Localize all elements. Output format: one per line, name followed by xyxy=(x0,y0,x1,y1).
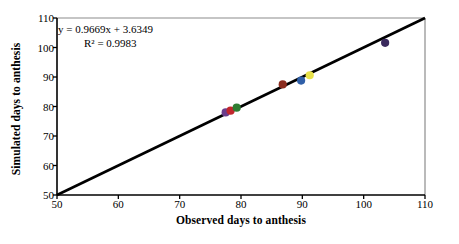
scatter-chart-figure: y = 0.9669x + 3.6349 R² = 0.9983 5060708… xyxy=(0,0,459,244)
r-squared-value: R² = 0.9983 xyxy=(58,36,153,50)
y-tick-label: 60 xyxy=(20,160,54,171)
x-tick-label: 70 xyxy=(160,199,200,210)
y-tick-label: 70 xyxy=(20,131,54,142)
data-point xyxy=(297,76,305,84)
x-axis-tick-labels: 5060708090100110 xyxy=(0,199,459,215)
data-point xyxy=(381,39,389,47)
data-point xyxy=(279,80,287,88)
y-tick-label: 110 xyxy=(20,13,54,24)
x-tick-label: 80 xyxy=(221,199,261,210)
x-tick-label: 90 xyxy=(282,199,322,210)
data-point xyxy=(306,71,314,79)
regression-equation: y = 0.9669x + 3.6349 xyxy=(58,22,153,36)
y-tick-label: 90 xyxy=(20,72,54,83)
y-tick-label: 80 xyxy=(20,101,54,112)
regression-annotation: y = 0.9669x + 3.6349 R² = 0.9983 xyxy=(58,22,153,50)
x-tick-label: 110 xyxy=(405,199,445,210)
x-tick-label: 100 xyxy=(344,199,384,210)
y-axis-title: Simulated days to anthesis xyxy=(10,19,22,199)
x-tick-label: 60 xyxy=(98,199,138,210)
data-point xyxy=(233,104,241,112)
x-axis-title: Observed days to anthesis xyxy=(57,214,425,226)
y-tick-label: 100 xyxy=(20,42,54,53)
x-tick-label: 50 xyxy=(37,199,77,210)
